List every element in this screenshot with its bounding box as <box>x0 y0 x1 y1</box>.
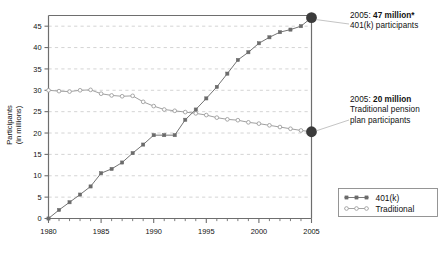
data-point <box>205 97 208 100</box>
leader-line-traditional <box>317 120 350 131</box>
participants-line-chart: 051015202530354045 198019851990199520002… <box>0 0 446 253</box>
legend-label: 401(k) <box>376 193 400 203</box>
data-point <box>215 85 218 88</box>
y-tick-label: 10 <box>33 171 41 180</box>
data-point <box>173 134 176 137</box>
data-point <box>141 100 145 104</box>
annotation-traditional-line2: Traditional pension <box>350 105 420 114</box>
legend-marker <box>365 207 369 211</box>
leader-line-401k <box>317 20 350 24</box>
annotation-leader-lines <box>317 20 350 131</box>
data-point <box>47 88 51 92</box>
data-point <box>278 31 281 34</box>
x-tick-label: 1980 <box>40 227 56 236</box>
x-tick-label: 1985 <box>93 227 109 236</box>
data-point <box>100 172 103 175</box>
highlight-endpoint-dot <box>306 12 317 23</box>
annotation-401k-prefix: 2005: <box>350 11 373 20</box>
y-tick-label: 35 <box>33 65 41 74</box>
y-axis-label-line1: Participants <box>5 105 14 145</box>
legend: 401(k)Traditional <box>339 189 438 217</box>
data-point <box>57 208 60 211</box>
data-point <box>257 122 261 126</box>
y-tick-label: 20 <box>33 129 41 138</box>
data-point <box>268 123 272 127</box>
annotation-401k-value: 47 million* <box>373 11 415 20</box>
data-point <box>278 125 282 129</box>
data-point <box>184 118 187 121</box>
legend-marker <box>345 207 349 211</box>
data-point <box>57 89 61 93</box>
data-point <box>47 217 50 220</box>
data-point <box>78 193 81 196</box>
data-point <box>152 104 156 108</box>
data-point <box>131 152 134 155</box>
legend-marker <box>355 196 358 199</box>
x-axis-tick-labels: 198019851990199520002005 <box>40 227 319 236</box>
data-point <box>89 88 93 92</box>
data-point <box>121 161 124 164</box>
data-point <box>247 120 251 124</box>
data-point <box>131 94 135 98</box>
data-point <box>183 110 187 114</box>
highlight-endpoint-dot <box>306 126 317 137</box>
annotation-401k-line2: 401(k) participants <box>350 21 418 30</box>
data-point <box>289 28 292 31</box>
annotation-traditional: 2005: 20 million Traditional pension pla… <box>350 95 445 126</box>
data-point <box>299 129 303 133</box>
data-point <box>142 143 145 146</box>
data-point <box>226 72 229 75</box>
data-point <box>289 127 293 131</box>
y-tick-label: 0 <box>37 214 41 223</box>
data-point <box>215 116 219 120</box>
data-point <box>257 42 260 45</box>
legend-marker <box>345 196 348 199</box>
y-tick-label: 5 <box>37 193 41 202</box>
data-point <box>120 94 124 98</box>
legend-marker <box>355 207 359 211</box>
legend-marker <box>365 196 368 199</box>
annotation-traditional-value: 20 million <box>373 95 411 104</box>
data-point <box>78 88 82 92</box>
x-tick-label: 2000 <box>251 227 267 236</box>
y-axis-label: Participants (in millions) <box>6 82 24 168</box>
data-point <box>68 90 72 94</box>
y-axis-tick-labels: 051015202530354045 <box>33 22 41 223</box>
data-point <box>225 118 229 122</box>
x-tick-label: 1990 <box>145 227 161 236</box>
series-401k <box>47 16 313 220</box>
data-point <box>194 112 198 116</box>
data-point <box>163 134 166 137</box>
data-point <box>194 108 197 111</box>
data-point <box>110 94 114 98</box>
y-tick-label: 30 <box>33 86 41 95</box>
legend-label: Traditional <box>376 204 415 214</box>
x-axis-ticks <box>49 219 312 224</box>
data-point <box>162 108 166 112</box>
x-tick-label: 1995 <box>198 227 214 236</box>
annotation-401k: 2005: 47 million* 401(k) participants <box>350 11 445 32</box>
annotation-traditional-line3: plan participants <box>350 116 410 125</box>
y-tick-label: 45 <box>33 22 41 31</box>
data-point <box>99 92 103 96</box>
y-tick-label: 40 <box>33 43 41 52</box>
data-point <box>204 113 208 117</box>
y-tick-label: 25 <box>33 107 41 116</box>
x-tick-label: 2005 <box>303 227 319 236</box>
data-point <box>89 185 92 188</box>
annotation-traditional-prefix: 2005: <box>350 95 373 104</box>
data-point <box>68 201 71 204</box>
data-point <box>236 118 240 122</box>
y-tick-label: 15 <box>33 150 41 159</box>
data-point <box>110 167 113 170</box>
chart-container: 051015202530354045 198019851990199520002… <box>0 0 446 253</box>
data-point <box>268 36 271 39</box>
series-line <box>49 90 312 132</box>
data-point <box>173 109 177 113</box>
data-point <box>299 25 302 28</box>
data-point <box>247 51 250 54</box>
data-point <box>236 58 239 61</box>
y-axis-label-line2: (in millions) <box>15 82 24 168</box>
data-point <box>152 134 155 137</box>
